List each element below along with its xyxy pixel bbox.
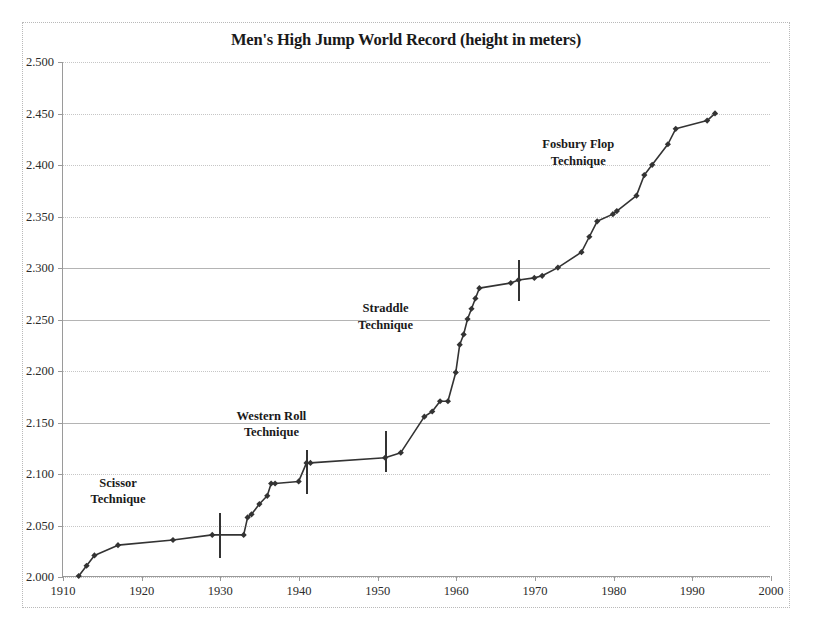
data-point-marker xyxy=(508,280,514,286)
data-point-marker xyxy=(453,369,459,375)
era-divider xyxy=(306,450,308,493)
x-axis-label: 1940 xyxy=(287,584,312,599)
x-axis-tick xyxy=(220,576,221,581)
data-point-marker xyxy=(673,126,679,132)
data-point-marker xyxy=(272,480,278,486)
annotation-line-1: Straddle xyxy=(358,301,413,318)
y-axis-label: 2.400 xyxy=(26,158,54,173)
x-axis-tick xyxy=(692,576,693,581)
x-axis-label: 1930 xyxy=(208,584,233,599)
gridline xyxy=(63,577,770,578)
x-axis-tick xyxy=(614,576,615,581)
annotation-line-1: Scissor xyxy=(91,475,146,492)
x-axis-tick xyxy=(456,576,457,581)
y-axis-label: 2.200 xyxy=(26,364,54,379)
y-axis-label: 2.250 xyxy=(26,312,54,327)
data-point-marker xyxy=(586,234,592,240)
chart-annotation: Fosbury FlopTechnique xyxy=(542,136,614,170)
data-point-marker xyxy=(594,218,600,224)
data-point-marker xyxy=(476,285,482,291)
data-point-marker xyxy=(307,460,313,466)
x-axis-label: 1910 xyxy=(51,584,76,599)
data-point-marker xyxy=(464,316,470,322)
data-point-marker xyxy=(539,273,545,279)
x-axis-label: 1990 xyxy=(680,584,705,599)
annotation-line-2: Technique xyxy=(237,425,307,442)
annotation-line-2: Technique xyxy=(358,317,413,334)
chart-annotation: StraddleTechnique xyxy=(358,301,413,335)
chart-annotation: ScissorTechnique xyxy=(91,475,146,509)
y-axis-label: 2.100 xyxy=(26,467,54,482)
x-axis-label: 1920 xyxy=(129,584,154,599)
x-axis-label: 1960 xyxy=(444,584,469,599)
data-point-marker xyxy=(461,331,467,337)
plot-area: 2.0002.0502.1002.1502.2002.2502.3002.350… xyxy=(62,62,770,577)
x-axis-tick xyxy=(378,576,379,581)
annotation-line-2: Technique xyxy=(91,492,146,509)
y-axis-label: 2.150 xyxy=(26,415,54,430)
x-axis-label: 1970 xyxy=(523,584,548,599)
annotation-line-1: Western Roll xyxy=(237,408,307,425)
data-point-marker xyxy=(241,532,247,538)
x-axis-tick xyxy=(63,576,64,581)
data-point-marker xyxy=(209,532,215,538)
chart-root: Men's High Jump World Record (height in … xyxy=(0,0,818,630)
data-point-marker xyxy=(170,537,176,543)
series-polyline xyxy=(79,113,715,576)
y-axis-label: 2.050 xyxy=(26,518,54,533)
data-point-marker xyxy=(115,542,121,548)
data-point-marker xyxy=(531,275,537,281)
x-axis-tick xyxy=(771,576,772,581)
y-axis-label: 2.450 xyxy=(26,106,54,121)
x-axis-label: 1980 xyxy=(601,584,626,599)
y-axis-label: 2.000 xyxy=(26,570,54,585)
y-axis-label: 2.350 xyxy=(26,209,54,224)
series-line xyxy=(63,62,770,576)
x-axis-tick xyxy=(535,576,536,581)
data-point-marker xyxy=(445,398,451,404)
x-axis-label: 1950 xyxy=(365,584,390,599)
chart-annotation: Western RollTechnique xyxy=(237,408,307,442)
era-divider xyxy=(385,431,387,472)
y-axis-label: 2.500 xyxy=(26,55,54,70)
annotation-line-2: Technique xyxy=(542,153,614,170)
x-axis-tick xyxy=(142,576,143,581)
chart-title: Men's High Jump World Record (height in … xyxy=(22,30,790,50)
data-point-marker xyxy=(296,478,302,484)
era-divider xyxy=(518,260,520,301)
x-axis-tick xyxy=(299,576,300,581)
data-point-marker xyxy=(468,306,474,312)
data-point-marker xyxy=(457,342,463,348)
data-point-marker xyxy=(472,295,478,301)
annotation-line-1: Fosbury Flop xyxy=(542,136,614,153)
x-axis-label: 2000 xyxy=(759,584,784,599)
era-divider xyxy=(219,513,221,558)
y-axis-label: 2.300 xyxy=(26,261,54,276)
